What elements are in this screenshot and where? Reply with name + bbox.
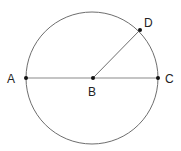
point-A: [24, 76, 28, 80]
radius-BD: [93, 30, 140, 78]
point-B: [91, 76, 95, 80]
label-B: B: [88, 85, 96, 99]
label-D: D: [144, 16, 153, 30]
circle-diagram: A B C D: [0, 0, 181, 151]
label-C: C: [165, 72, 174, 86]
label-A: A: [7, 72, 15, 86]
point-C: [156, 76, 160, 80]
point-D: [138, 28, 142, 32]
